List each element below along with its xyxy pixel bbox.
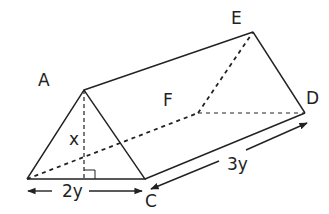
- front-triangle: [27, 90, 145, 179]
- vertex-label-f: F: [163, 92, 173, 109]
- vertex-label-d: D: [306, 90, 319, 107]
- edge-ae: [84, 32, 253, 90]
- length-arrow-upper: [246, 123, 307, 150]
- length-label: 3y: [227, 156, 248, 173]
- edge-cd: [145, 113, 305, 179]
- length-arrow-lower: [151, 161, 219, 189]
- vertex-label-a: A: [38, 72, 50, 89]
- base-label: 2y: [62, 183, 83, 200]
- vertex-label-e: E: [231, 10, 242, 27]
- hidden-edge-fe: [198, 32, 253, 113]
- edge-ed: [253, 32, 305, 113]
- hidden-edge-bf: [27, 113, 198, 179]
- height-label: x: [69, 131, 79, 148]
- vertex-label-c: C: [145, 193, 157, 210]
- right-angle-mark: [84, 170, 95, 179]
